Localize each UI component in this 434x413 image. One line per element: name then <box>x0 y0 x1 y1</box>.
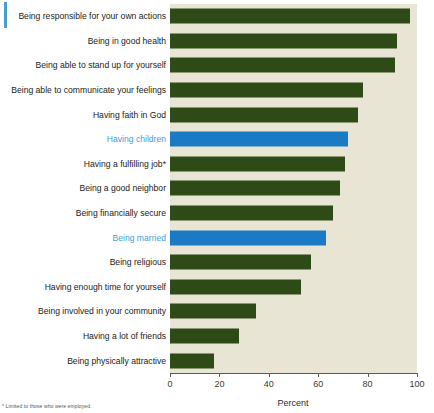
bar-row: Being a good neighbor <box>0 176 434 201</box>
category-label: Being involved in your community <box>38 307 166 316</box>
category-label: Having children <box>107 135 166 144</box>
bar <box>170 33 397 48</box>
bar-chart: Being responsible for your own actionsBe… <box>0 0 434 413</box>
bar <box>170 9 410 24</box>
bar <box>170 329 239 344</box>
category-label: Being religious <box>110 258 166 267</box>
category-label: Having a lot of friends <box>83 332 166 341</box>
bar-row: Being religious <box>0 250 434 275</box>
bar-row: Being responsible for your own actions <box>0 4 434 29</box>
bar <box>170 132 348 147</box>
tick-mark <box>318 373 319 377</box>
bar <box>170 353 214 368</box>
tick-mark <box>269 373 270 377</box>
bar <box>170 206 333 221</box>
bar-row: Being physically attractive <box>0 348 434 373</box>
bar-row: Being able to stand up for yourself <box>0 53 434 78</box>
category-label: Being in good health <box>88 37 166 46</box>
tick-mark <box>417 373 418 377</box>
bar-row: Having a lot of friends <box>0 324 434 349</box>
category-label: Being financially secure <box>76 209 166 218</box>
bar-row: Being involved in your community <box>0 299 434 324</box>
category-label: Being responsible for your own actions <box>18 12 166 21</box>
category-label: Having enough time for yourself <box>45 283 166 292</box>
tick-label: 20 <box>214 379 224 389</box>
tick-label: 40 <box>264 379 274 389</box>
category-label: Being able to communicate your feelings <box>11 86 166 95</box>
category-label: Being able to stand up for yourself <box>36 61 166 70</box>
tick-mark <box>219 373 220 377</box>
category-label: Being physically attractive <box>67 356 166 365</box>
bar-row: Being financially secure <box>0 201 434 226</box>
bar <box>170 279 301 294</box>
category-label: Being married <box>113 233 167 242</box>
x-axis-line <box>170 373 418 374</box>
bar <box>170 156 345 171</box>
bar-row: Having children <box>0 127 434 152</box>
bar <box>170 181 340 196</box>
category-label: Having a fulfilling job* <box>84 160 166 169</box>
footnote: * Limited to those who were employed. <box>2 403 92 409</box>
bar-row: Having a fulfilling job* <box>0 152 434 177</box>
bar-row: Having faith in God <box>0 102 434 127</box>
tick-label: 60 <box>313 379 323 389</box>
tick-label: 100 <box>409 379 424 389</box>
tick-label: 80 <box>363 379 373 389</box>
bar-row: Being married <box>0 225 434 250</box>
bar-row: Being able to communicate your feelings <box>0 78 434 103</box>
x-axis-title: Percent <box>277 398 308 408</box>
bar <box>170 107 358 122</box>
bar-row: Having enough time for yourself <box>0 275 434 300</box>
bar <box>170 230 326 245</box>
bar <box>170 58 395 73</box>
bar <box>170 255 311 270</box>
category-label: Having faith in God <box>93 110 166 119</box>
tick-label: 0 <box>167 379 172 389</box>
bar-row: Being in good health <box>0 29 434 54</box>
tick-mark <box>170 373 171 377</box>
bar <box>170 83 363 98</box>
bar <box>170 304 256 319</box>
tick-mark <box>368 373 369 377</box>
category-label: Being a good neighbor <box>80 184 167 193</box>
